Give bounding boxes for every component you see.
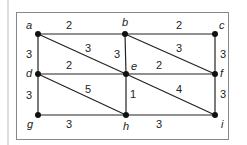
weight-c-f: 3 bbox=[220, 48, 226, 60]
label-c: c bbox=[219, 19, 225, 31]
weight-d-e: 2 bbox=[66, 59, 72, 71]
weight-h-i: 3 bbox=[156, 118, 162, 130]
node-g bbox=[35, 112, 41, 118]
node-f bbox=[212, 71, 218, 77]
weight-e-i: 4 bbox=[176, 83, 182, 95]
weight-e-f: 2 bbox=[156, 59, 162, 71]
label-d: d bbox=[26, 67, 33, 79]
weight-d-h: 5 bbox=[85, 83, 91, 95]
node-d bbox=[35, 71, 41, 77]
weight-g-h: 3 bbox=[66, 118, 72, 130]
label-e: e bbox=[131, 60, 137, 72]
label-b: b bbox=[122, 16, 128, 28]
weight-f-i: 3 bbox=[220, 88, 226, 100]
edge-d-h bbox=[38, 74, 126, 115]
edge-b-f bbox=[125, 34, 215, 74]
node-i bbox=[212, 112, 218, 118]
weight-e-h: 1 bbox=[130, 88, 136, 100]
node-h bbox=[123, 112, 129, 118]
node-e bbox=[123, 71, 129, 77]
weight-d-g: 3 bbox=[26, 89, 32, 101]
weight-a-e: 3 bbox=[85, 42, 91, 54]
node-a bbox=[35, 31, 41, 37]
node-c bbox=[212, 31, 218, 37]
graph-diagram: a b c d e f g h i 2 2 3 3 3 3 3 2 2 3 5 … bbox=[0, 0, 247, 145]
node-b bbox=[122, 31, 128, 37]
edge-b-e bbox=[125, 34, 126, 74]
label-i: i bbox=[221, 118, 224, 130]
label-a: a bbox=[26, 19, 32, 31]
weight-b-f: 3 bbox=[176, 42, 182, 54]
weight-a-d: 3 bbox=[26, 48, 32, 60]
edge-e-i bbox=[126, 74, 215, 115]
edge-a-e bbox=[38, 34, 126, 74]
weight-b-c: 2 bbox=[176, 19, 182, 31]
label-g: g bbox=[27, 118, 34, 130]
label-f: f bbox=[220, 67, 224, 79]
label-h: h bbox=[123, 120, 129, 132]
weight-a-b: 2 bbox=[66, 19, 72, 31]
weight-b-e: 3 bbox=[114, 48, 120, 60]
